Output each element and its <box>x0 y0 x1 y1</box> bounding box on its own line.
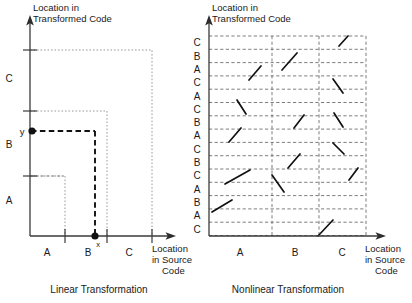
segment-11 <box>349 168 358 180</box>
ny-label-6: B <box>194 117 201 128</box>
transformation-diagram: Location in Transformed Code Location in… <box>0 0 412 303</box>
segment-3 <box>249 66 261 80</box>
nonlinear-x-label-a: A <box>237 247 244 258</box>
segment-6 <box>334 113 343 127</box>
segment-15 <box>318 220 333 236</box>
nonlinear-y-axis <box>205 15 213 236</box>
nonlinear-segments <box>212 36 358 236</box>
ny-label-8: C <box>193 144 200 155</box>
ny-label-1: B <box>194 51 201 62</box>
linear-x-label-b: B <box>85 247 92 258</box>
linear-caption: Linear Transformation <box>50 284 147 295</box>
segment-8 <box>229 128 241 142</box>
nonlinear-caption: Nonlinear Transformation <box>232 284 344 295</box>
nonlinear-x-label-b: B <box>292 247 299 258</box>
ny-label-11: A <box>194 184 201 195</box>
linear-y-label-c: C <box>5 73 12 84</box>
nonlinear-x-label-c: C <box>338 247 345 258</box>
nonlinear-y-axis-title-line1: Location in <box>212 2 258 13</box>
figure-root: Location in Transformed Code Location in… <box>0 0 412 303</box>
ny-label-3: C <box>193 77 200 88</box>
segment-13 <box>272 175 284 192</box>
nonlinear-horizontal-grid <box>209 36 366 236</box>
linear-guides <box>30 50 152 236</box>
guide-c-boundary <box>30 50 152 236</box>
nonlinear-x-axis <box>209 232 386 240</box>
panel-nonlinear: C B A C A C B A C B C A B A C Location i… <box>193 2 405 295</box>
guide-a-boundary <box>30 176 65 236</box>
ny-label-10: C <box>193 170 200 181</box>
linear-leader-lines <box>31 131 95 236</box>
segment-1 <box>282 53 297 70</box>
nonlinear-y-axis-title-line2: Transformed Code <box>212 13 291 24</box>
point-y-marker <box>28 127 35 134</box>
point-x-marker <box>91 232 98 239</box>
linear-x-axis-title-line1: Location <box>152 243 188 254</box>
nonlinear-x-axis-title-line2: in Source <box>365 254 405 265</box>
point-y-label: y <box>20 126 25 137</box>
ny-label-14: C <box>193 224 200 235</box>
nonlinear-x-axis-title-line3: Code <box>375 265 398 276</box>
linear-y-label-b: B <box>6 139 13 150</box>
nonlinear-y-tick-labels: C B A C A C B A C B C A B A C <box>193 37 200 234</box>
ny-label-2: A <box>194 64 201 75</box>
segment-9 <box>333 143 344 154</box>
linear-x-label-a: A <box>44 247 51 258</box>
segment-14 <box>212 200 232 212</box>
ny-label-7: A <box>194 130 201 141</box>
guide-b-boundary <box>30 111 107 236</box>
segment-7 <box>294 115 304 128</box>
ny-label-5: C <box>193 104 200 115</box>
ny-label-0: C <box>193 37 200 48</box>
nonlinear-x-axis-title-line1: Location <box>365 243 401 254</box>
linear-x-label-c: C <box>125 247 132 258</box>
segment-4 <box>333 79 343 93</box>
point-x-label: x <box>96 240 100 249</box>
linear-y-label-a: A <box>6 195 13 206</box>
linear-x-axis <box>30 229 176 243</box>
linear-y-axis-title-line1: Location in <box>33 2 79 13</box>
linear-y-axis-title-line2: Transformed Code <box>33 13 112 24</box>
linear-x-axis-title-line3: Code <box>162 265 185 276</box>
linear-x-axis-title-line2: in Source <box>152 254 192 265</box>
ny-label-4: A <box>194 91 201 102</box>
ny-label-12: B <box>194 197 201 208</box>
linear-y-axis <box>23 15 37 236</box>
ny-label-13: A <box>194 210 201 221</box>
panel-linear: Location in Transformed Code Location in… <box>5 2 192 295</box>
ny-label-9: B <box>194 157 201 168</box>
segment-2 <box>339 36 348 46</box>
